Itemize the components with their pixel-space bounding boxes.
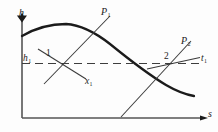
x1-base: x <box>85 76 89 86</box>
point-1-label: 1 <box>46 49 51 59</box>
P1-subscript: 1 <box>108 11 111 18</box>
t1-label: t1 <box>201 54 207 64</box>
h1-label: h1 <box>23 54 31 64</box>
h-axis-label: h <box>19 8 24 18</box>
P1-label: P1 <box>101 7 110 17</box>
x1-subscript: 1 <box>90 81 93 87</box>
entropy-axis-arrowhead <box>200 115 208 120</box>
x1-label: x1 <box>85 77 92 87</box>
P1-base: P <box>101 6 107 17</box>
P2-isobar-line <box>121 41 191 117</box>
hs-diagram-figure: h s h1 1 P1 x1 2 P2 t1 <box>0 0 218 132</box>
t1-subscript: 1 <box>204 58 207 64</box>
point-2-label: 2 <box>164 52 169 62</box>
diagram-canvas <box>0 0 218 132</box>
h1-subscript: 1 <box>28 58 31 64</box>
P2-subscript: 2 <box>188 40 191 47</box>
s-axis-label: s <box>208 109 212 119</box>
P2-label: P2 <box>181 36 190 46</box>
P2-base: P <box>181 35 187 46</box>
